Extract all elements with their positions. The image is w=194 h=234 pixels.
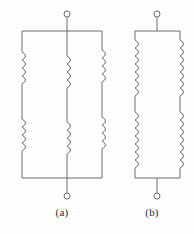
- circuit-diagram-svg: [0, 0, 194, 234]
- circuit-a-middle-inductor-lower: [67, 122, 71, 154]
- circuit-a-group: [22, 11, 106, 199]
- circuit-a-right-inductor-lower: [102, 117, 106, 149]
- circuit-b-right-inductor-lower: [180, 112, 184, 168]
- circuit-a-middle-inductor-upper: [67, 56, 71, 88]
- circuit-b-group: [135, 11, 184, 199]
- figure-container: (a) (b): [0, 0, 194, 234]
- circuit-a-right-inductor-upper: [102, 50, 106, 82]
- circuit-b-bottom-terminal: [154, 193, 160, 199]
- circuit-a-bottom-terminal: [64, 193, 70, 199]
- circuit-a-left-inductor-lower: [22, 119, 26, 151]
- circuit-a-left-inductor-upper: [22, 52, 26, 84]
- circuit-b-right-inductor-upper: [180, 40, 184, 96]
- circuit-a-caption: (a): [42, 206, 82, 218]
- circuit-b-left-inductor-lower: [135, 112, 139, 168]
- circuit-b-caption: (b): [132, 206, 172, 218]
- circuit-b-left-inductor-upper: [135, 40, 139, 96]
- circuit-b-top-terminal: [154, 11, 160, 17]
- circuit-a-top-terminal: [64, 11, 70, 17]
